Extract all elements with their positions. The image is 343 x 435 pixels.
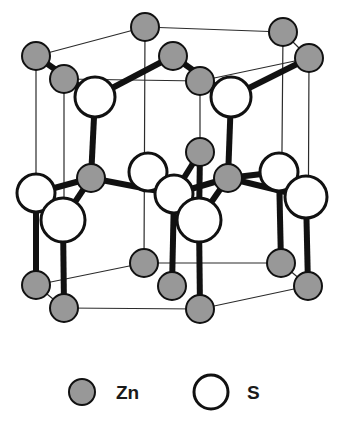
zn-atom [294,272,322,300]
zn-atom [50,65,78,93]
unit-cell-edge [36,263,144,285]
zn-atom [50,294,78,322]
unit-cell-edge [144,27,145,263]
zn-atom [186,295,214,323]
legend-label-s: S [247,382,260,403]
legend: ZnS [69,375,260,409]
zn-atom [22,271,50,299]
zn-atom [130,249,158,277]
s-atom [41,198,85,242]
legend-label-zn: Zn [116,382,139,403]
zn-atom [186,138,214,166]
s-atom [285,176,327,218]
unit-cell-edge [200,286,308,309]
s-atom [211,77,251,117]
legend-symbol-s [194,375,228,409]
unit-cell-edge [145,27,283,32]
legend-symbol-zn [69,379,95,405]
zn-atom [295,44,323,72]
zn-atom [158,272,186,300]
zn-atom [269,18,297,46]
unit-cell-edge [64,308,200,309]
zn-atom [186,67,214,95]
zn-atom [77,164,105,192]
zn-atom [22,42,50,70]
zn-atom [131,13,159,41]
zn-atom [214,164,242,192]
unit-cell-edge [36,27,145,56]
s-atom [75,77,115,117]
crystal-structure-svg: ZnS [0,0,343,435]
crystal-structure-figure: ZnS [0,0,343,435]
zn-atom [159,42,187,70]
zn-atom [267,249,295,277]
s-atom [177,198,221,242]
